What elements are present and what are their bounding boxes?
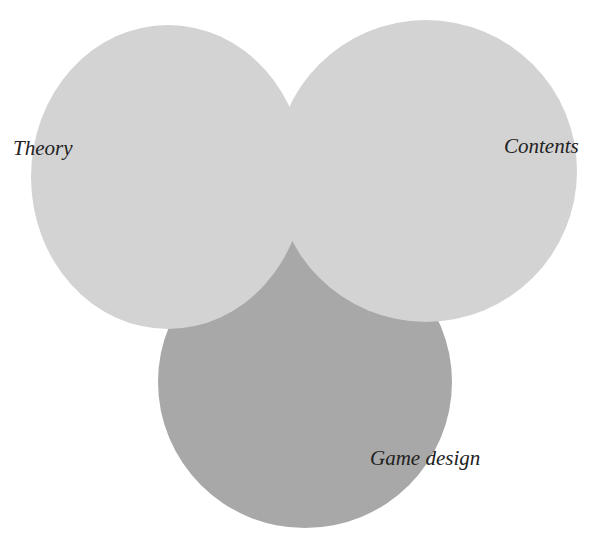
theory-circle bbox=[31, 25, 305, 329]
game-design-label: Game design bbox=[370, 446, 480, 471]
contents-circle bbox=[275, 20, 577, 322]
contents-label: Contents bbox=[504, 134, 579, 159]
theory-label: Theory bbox=[13, 136, 73, 161]
venn-diagram: Theory Contents Game design bbox=[0, 0, 593, 547]
